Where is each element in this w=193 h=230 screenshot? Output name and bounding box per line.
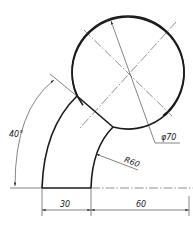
diameter-label: φ70: [161, 133, 176, 142]
offset-dimension: 60: [91, 200, 189, 210]
inner-arc: [91, 127, 113, 188]
circle-centerline-1: [84, 30, 172, 116]
offset-label: 60: [136, 200, 146, 209]
outer-arc: [42, 96, 77, 188]
radius-dimension: R60: [96, 154, 141, 170]
technical-drawing: φ70 R60 40° 30 60: [0, 0, 193, 230]
radius-label: R60: [123, 155, 141, 169]
angle-label: 40°: [9, 130, 23, 139]
width-label: 30: [60, 200, 70, 209]
junction-outer: [77, 96, 113, 127]
circle-centerline-2: [80, 22, 176, 128]
angle-dimension: 40°: [9, 80, 54, 186]
width-dimension: 30: [42, 200, 91, 210]
